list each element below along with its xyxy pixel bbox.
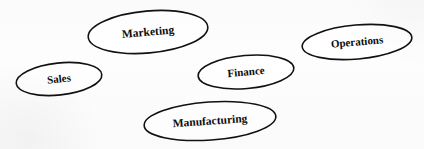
node-cluster-diagram: Marketing Sales Finance Operations Manuf… — [0, 0, 424, 149]
diagram-canvas: Marketing Sales Finance Operations Manuf… — [0, 0, 424, 149]
sales-label: Sales — [46, 71, 72, 86]
node-marketing[interactable]: Marketing — [86, 6, 209, 58]
node-operations[interactable]: Operations — [301, 20, 414, 63]
node-sales[interactable]: Sales — [15, 59, 104, 100]
node-finance[interactable]: Finance — [197, 51, 296, 92]
node-manufacturing[interactable]: Manufacturing — [143, 97, 277, 144]
